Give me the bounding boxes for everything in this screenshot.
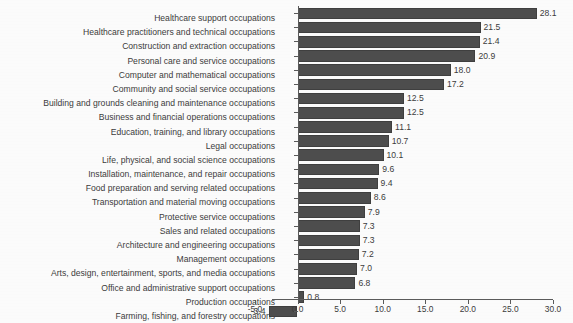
bar-value-label: 10.7	[392, 135, 409, 148]
bar-value-label: 9.6	[382, 163, 394, 176]
bar	[298, 249, 359, 261]
chart-row: Community and social service occupations…	[0, 78, 573, 92]
bar	[298, 36, 480, 48]
y-axis-tick	[294, 141, 298, 142]
category-label: Healthcare practitioners and technical o…	[0, 21, 275, 34]
category-label: Healthcare support occupations	[0, 7, 275, 20]
bar	[298, 206, 365, 218]
bar	[298, 235, 360, 247]
bar-value-label: 7.2	[362, 248, 374, 261]
category-label: Architecture and engineering occupations	[0, 234, 275, 247]
bar-value-label: 7.9	[368, 206, 380, 219]
chart-row: Education, training, and library occupat…	[0, 121, 573, 135]
category-label: Transportation and material moving occup…	[0, 191, 275, 204]
chart-row: Protective service occupations7.9	[0, 206, 573, 220]
x-axis-tick-label: 15.0	[417, 304, 433, 315]
x-axis-tick-label: 10.0	[375, 304, 391, 315]
bar	[298, 263, 358, 275]
y-axis-tick	[294, 27, 298, 28]
x-axis-tick	[553, 300, 554, 304]
category-label: Protective service occupations	[0, 206, 275, 219]
y-axis-tick	[294, 155, 298, 156]
bar-value-label: 21.5	[484, 21, 501, 34]
category-label: Farming, fishing, and forestry occupatio…	[0, 305, 275, 318]
chart-row: Architecture and engineering occupations…	[0, 234, 573, 248]
y-axis-tick	[294, 127, 298, 128]
chart-row: Life, physical, and social science occup…	[0, 149, 573, 163]
x-axis-tick-label: 30.0	[545, 304, 561, 315]
y-axis-tick	[294, 297, 298, 298]
y-axis-tick	[294, 70, 298, 71]
x-axis-tick	[383, 300, 384, 304]
x-axis-tick	[510, 300, 511, 304]
bar	[298, 64, 451, 76]
y-axis-tick	[294, 13, 298, 14]
x-axis-tick	[255, 300, 256, 304]
category-label: Arts, design, entertainment, sports, and…	[0, 262, 275, 275]
chart-row: Construction and extraction occupations2…	[0, 35, 573, 49]
chart-row: Installation, maintenance, and repair oc…	[0, 163, 573, 177]
chart-row: Healthcare practitioners and technical o…	[0, 21, 573, 35]
x-axis-tick	[425, 300, 426, 304]
chart-row: Healthcare support occupations28.1	[0, 7, 573, 21]
bar-value-label: 9.4	[381, 177, 393, 190]
bar-value-label: 28.1	[540, 7, 557, 20]
category-label: Sales and related occupations	[0, 220, 275, 233]
y-axis-tick	[294, 254, 298, 255]
y-axis-tick	[294, 269, 298, 270]
x-axis-tick-label: 0.0	[292, 304, 304, 315]
chart-row: Food preparation and serving related occ…	[0, 177, 573, 191]
bar-value-label: 11.1	[395, 121, 411, 134]
bar-value-label: 20.9	[478, 50, 495, 63]
x-axis-tick-label: 20.0	[460, 304, 476, 315]
y-axis-tick	[294, 311, 298, 312]
chart-row: Legal occupations10.7	[0, 135, 573, 149]
bar	[298, 107, 404, 119]
y-axis-tick	[294, 240, 298, 241]
y-axis-tick	[294, 98, 298, 99]
y-axis-tick	[294, 283, 298, 284]
category-label: Life, physical, and social science occup…	[0, 149, 275, 162]
chart-row: Personal care and service occupations20.…	[0, 50, 573, 64]
chart-row: Office and administrative support occupa…	[0, 277, 573, 291]
x-axis-tick	[340, 300, 341, 304]
y-axis-tick	[294, 183, 298, 184]
chart-rows: Healthcare support occupations28.1Health…	[0, 7, 573, 319]
bar	[298, 8, 537, 20]
bar-value-label: 10.1	[387, 149, 404, 162]
y-axis-tick	[294, 84, 298, 85]
bar	[298, 164, 380, 176]
category-label: Office and administrative support occupa…	[0, 277, 275, 290]
bar	[298, 220, 360, 232]
bar	[298, 79, 444, 91]
chart-row: Computer and mathematical occupations18.…	[0, 64, 573, 78]
bar-value-label: 0.8	[307, 291, 319, 304]
chart-row: Building and grounds cleaning and mainte…	[0, 92, 573, 106]
bar	[298, 192, 371, 204]
category-label: Legal occupations	[0, 135, 275, 148]
chart-row: Sales and related occupations7.3	[0, 220, 573, 234]
bar-value-label: 7.3	[363, 234, 375, 247]
bar	[298, 121, 393, 133]
y-axis-tick	[294, 212, 298, 213]
category-label: Computer and mathematical occupations	[0, 64, 275, 77]
category-label: Building and grounds cleaning and mainte…	[0, 92, 275, 105]
bar	[298, 22, 481, 34]
x-axis-tick-label: 25.0	[502, 304, 518, 315]
bar	[298, 277, 356, 289]
bar	[298, 178, 378, 190]
y-axis-line	[298, 6, 299, 299]
bar-value-label: 18.0	[454, 64, 471, 77]
bar	[298, 291, 305, 303]
y-axis-tick	[294, 112, 298, 113]
y-axis-tick	[294, 198, 298, 199]
bar-value-label: 12.5	[407, 106, 424, 119]
category-label: Business and financial operations occupa…	[0, 106, 275, 119]
category-label: Food preparation and serving related occ…	[0, 177, 275, 190]
chart-row: Transportation and material moving occup…	[0, 191, 573, 205]
bar	[298, 93, 404, 105]
bar	[298, 135, 389, 147]
category-label: Personal care and service occupations	[0, 50, 275, 63]
chart-row: Farming, fishing, and forestry occupatio…	[0, 305, 573, 319]
